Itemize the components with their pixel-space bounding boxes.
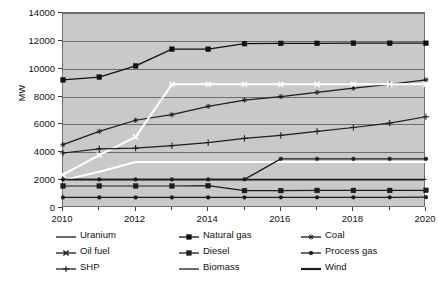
legend-swatch-star	[300, 231, 322, 243]
x-tick-label-2016: 2016	[269, 213, 290, 224]
legend-swatch-thick	[300, 263, 322, 275]
legend-label: Oil fuel	[80, 245, 110, 257]
x-tick-label-2020: 2020	[414, 213, 435, 224]
series-wind	[61, 157, 428, 181]
x-tick-mark-minor-2019	[389, 207, 390, 210]
x-tick-mark-2016	[280, 207, 281, 211]
x-tick-mark-minor-2011	[98, 207, 99, 210]
y-tick-label-10000: 10000	[29, 62, 55, 73]
legend-marker-icon	[178, 245, 200, 257]
legend-swatch-none	[55, 231, 77, 243]
x-tick-label-2018: 2018	[342, 213, 363, 224]
x-tick-mark-minor-2015	[244, 207, 245, 210]
x-tick-label-2014: 2014	[197, 213, 218, 224]
legend-row-0: UraniumNatural gasCoal	[55, 227, 435, 243]
legend-item-oil-fuel[interactable]: Oil fuel	[55, 243, 110, 259]
legend-item-process-gas[interactable]: Process gas	[300, 243, 377, 259]
legend-item-diesel[interactable]: Diesel	[178, 243, 229, 259]
legend-swatch-plus	[55, 263, 77, 275]
legend-marker-icon	[55, 261, 77, 273]
legend-item-biomass[interactable]: Biomass	[178, 259, 239, 275]
y-tick-label-2000: 2000	[34, 174, 55, 185]
legend-label: Wind	[325, 261, 347, 273]
y-tick-label-12000: 12000	[29, 34, 55, 45]
legend-row-1: Oil fuelDieselProcess gas	[55, 243, 435, 259]
y-axis-title: MW	[17, 73, 27, 113]
x-tick-mark-2014	[207, 207, 208, 211]
line-chart-figure: MW 02000400060008000100001200014000 2010…	[0, 0, 439, 284]
x-tick-mark-2020	[425, 207, 426, 211]
chart-legend: UraniumNatural gasCoalOil fuelDieselProc…	[55, 227, 435, 279]
legend-label: Process gas	[325, 245, 377, 257]
legend-item-coal[interactable]: Coal	[300, 227, 345, 243]
legend-marker-icon	[178, 261, 200, 273]
legend-label: SHP	[80, 261, 100, 273]
legend-marker-icon	[300, 245, 322, 257]
y-tick-label-8000: 8000	[34, 90, 55, 101]
x-tick-mark-2012	[135, 207, 136, 211]
legend-swatch-none	[178, 263, 200, 275]
series-shp	[60, 114, 429, 156]
legend-swatch-square	[178, 231, 200, 243]
plot-area	[62, 12, 425, 207]
legend-marker-icon	[178, 229, 200, 241]
y-tick-label-0: 0	[50, 202, 55, 213]
x-tick-label-2010: 2010	[51, 213, 72, 224]
legend-label: Natural gas	[203, 229, 252, 241]
legend-label: Coal	[325, 229, 345, 241]
legend-label: Diesel	[203, 245, 229, 257]
legend-label: Uranium	[80, 229, 116, 241]
legend-marker-icon	[300, 261, 322, 273]
legend-marker-icon	[55, 229, 77, 241]
legend-item-natural-gas[interactable]: Natural gas	[178, 227, 252, 243]
series-diesel	[61, 183, 429, 193]
x-tick-mark-2018	[352, 207, 353, 211]
legend-item-uranium[interactable]: Uranium	[55, 227, 116, 243]
legend-swatch-cross	[55, 247, 77, 259]
legend-swatch-dot	[300, 247, 322, 259]
legend-item-shp[interactable]: SHP	[55, 259, 100, 275]
x-tick-mark-2010	[62, 207, 63, 211]
legend-marker-icon	[55, 245, 77, 257]
x-tick-label-2012: 2012	[124, 213, 145, 224]
legend-item-wind[interactable]: Wind	[300, 259, 347, 275]
series-natural-gas	[61, 41, 429, 82]
series-process-gas	[61, 195, 428, 199]
legend-swatch-square	[178, 247, 200, 259]
y-tick-label-14000: 14000	[29, 7, 55, 18]
x-tick-mark-minor-2017	[316, 207, 317, 210]
series-layer	[63, 13, 426, 208]
y-tick-label-4000: 4000	[34, 146, 55, 157]
y-tick-label-6000: 6000	[34, 118, 55, 129]
x-tick-mark-minor-2013	[171, 207, 172, 210]
legend-label: Biomass	[203, 261, 239, 273]
legend-row-2: SHPBiomassWind	[55, 259, 435, 275]
legend-marker-icon	[300, 229, 322, 241]
